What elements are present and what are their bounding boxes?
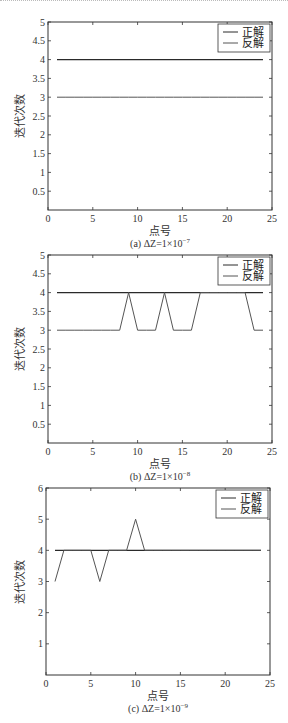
- x-tick-label: 10: [133, 213, 143, 224]
- y-tick-label: 4: [40, 54, 45, 65]
- y-tick-label: 5: [40, 250, 45, 261]
- y-tick-label: 2: [40, 129, 45, 140]
- x-tick-label: 5: [88, 678, 93, 689]
- x-tick-label: 25: [267, 213, 277, 224]
- y-tick-label: 6: [38, 483, 43, 494]
- legend-label: 反解: [240, 502, 262, 516]
- x-axis-label: 点号: [147, 690, 169, 703]
- y-tick-label: 2.5: [33, 111, 46, 122]
- y-tick-label: 1: [40, 400, 45, 411]
- x-tick-label: 20: [222, 446, 232, 457]
- figure-caption: (c) ΔZ=1×10−9: [128, 702, 188, 715]
- x-axis-label: 点号: [149, 458, 171, 471]
- y-axis-label: 迭代次数: [13, 94, 27, 138]
- x-tick-label: 15: [177, 446, 187, 457]
- x-tick-label: 10: [133, 446, 143, 457]
- legend: 正解反解: [216, 490, 268, 518]
- figure-caption: (b) ΔZ=1×10−8: [130, 470, 191, 483]
- y-tick-label: 4.5: [33, 268, 46, 279]
- legend: 正解反解: [218, 24, 270, 52]
- x-tick-label: 0: [46, 446, 51, 457]
- chart-b: 05101520250.511.522.533.544.55正解反解点号迭代次数…: [13, 250, 277, 484]
- x-tick-label: 20: [220, 678, 230, 689]
- x-tick-label: 25: [265, 678, 275, 689]
- x-tick-label: 15: [177, 213, 187, 224]
- chart-c: 0510152025123456正解反解点号迭代次数(c) ΔZ=1×10−9: [13, 483, 275, 716]
- y-axis-label: 迭代次数: [13, 327, 27, 371]
- figure-panels: 05101520250.511.522.533.544.55正解反解点号迭代次数…: [0, 0, 288, 723]
- y-tick-label: 4: [40, 287, 45, 298]
- y-tick-label: 3.5: [33, 73, 46, 84]
- x-tick-label: 5: [90, 213, 95, 224]
- legend-label: 反解: [242, 36, 264, 50]
- y-tick-label: 3: [40, 325, 45, 336]
- y-tick-label: 5: [38, 514, 43, 525]
- y-tick-label: 2: [38, 607, 43, 618]
- legend: 正解反解: [218, 257, 270, 285]
- x-tick-label: 0: [44, 678, 49, 689]
- x-tick-label: 0: [46, 213, 51, 224]
- x-tick-label: 10: [131, 678, 141, 689]
- y-tick-label: 3.5: [33, 306, 46, 317]
- y-tick-label: 1.5: [33, 381, 46, 392]
- y-tick-label: 4: [38, 545, 43, 556]
- y-axis-label: 迭代次数: [13, 560, 27, 604]
- series-line-reverse: [55, 519, 261, 581]
- figure-caption: (a) ΔZ=1×10−7: [130, 237, 190, 250]
- x-axis-label: 点号: [149, 225, 171, 238]
- y-tick-label: 3: [38, 576, 43, 587]
- y-tick-label: 2: [40, 362, 45, 373]
- x-tick-label: 15: [175, 678, 185, 689]
- x-tick-label: 25: [267, 446, 277, 457]
- y-tick-label: 1: [40, 167, 45, 178]
- y-tick-label: 4.5: [33, 35, 46, 46]
- y-tick-label: 1: [38, 638, 43, 649]
- x-tick-label: 5: [90, 446, 95, 457]
- y-tick-label: 0.5: [33, 419, 46, 430]
- legend-label: 反解: [242, 269, 264, 283]
- x-tick-label: 20: [222, 213, 232, 224]
- y-tick-label: 5: [40, 17, 45, 28]
- series-line-reverse: [57, 293, 263, 331]
- chart-a: 05101520250.511.522.533.544.55正解反解点号迭代次数…: [13, 17, 277, 251]
- y-tick-label: 1.5: [33, 148, 46, 159]
- y-tick-label: 3: [40, 92, 45, 103]
- y-tick-label: 2.5: [33, 344, 46, 355]
- y-tick-label: 0.5: [33, 186, 46, 197]
